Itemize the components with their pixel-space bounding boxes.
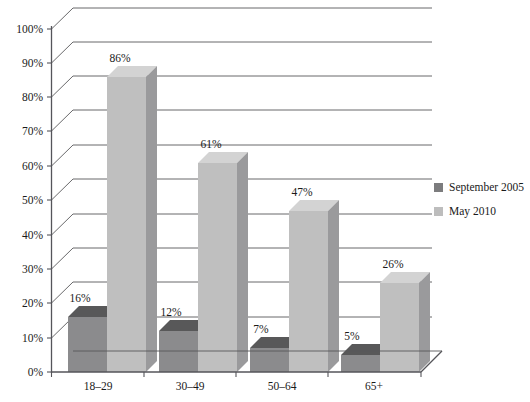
ytick-label-100: 100% [16, 23, 43, 35]
legend-label-september-2005: September 2005 [449, 181, 524, 194]
ytick-label-80: 80% [22, 91, 44, 103]
bar-65-plus-may-2010[interactable] [380, 272, 430, 372]
bar-group-3 [341, 272, 430, 372]
xtick-label-50-64: 50–64 [268, 380, 297, 392]
ytick-label-30: 30% [22, 263, 44, 275]
ytick-label-90: 90% [22, 57, 44, 69]
bar-30-49-may-2010[interactable] [198, 152, 248, 372]
bar-chart-figure: 100% 90% 80% 70% 60% 50% 40% 30% 20% 10%… [0, 0, 530, 402]
ytick-label-40: 40% [22, 229, 44, 241]
value-label-18-29-september-2005: 16% [69, 292, 91, 304]
bar-side-face [419, 272, 430, 372]
x-tickmarks [52, 372, 422, 377]
bar-front-face [68, 317, 107, 372]
ytick-label-50: 50% [22, 194, 44, 206]
bar-front-face [289, 211, 328, 372]
ytick-label-20: 20% [22, 297, 44, 309]
bar-side-face [146, 66, 157, 372]
value-label-50-64-september-2005: 7% [253, 323, 269, 335]
bar-front-face [107, 77, 146, 372]
value-label-18-29-may-2010: 86% [109, 52, 131, 64]
bar-front-face [380, 283, 419, 372]
legend: September 2005 May 2010 [434, 181, 524, 218]
xtick-label-65-plus: 65+ [365, 380, 383, 392]
ytick-label-70: 70% [22, 125, 44, 137]
y-axis: 100% 90% 80% 70% 60% 50% 40% 30% 20% 10%… [16, 23, 51, 378]
value-label-30-49-september-2005: 12% [160, 306, 182, 318]
y-tickmarks [47, 29, 52, 372]
bar-front-face [341, 355, 380, 372]
ytick-label-10: 10% [22, 332, 44, 344]
xtick-label-30-49: 30–49 [176, 380, 205, 392]
bar-front-face [198, 163, 237, 372]
value-label-65-plus-may-2010: 26% [382, 258, 404, 270]
legend-label-may-2010: May 2010 [449, 205, 496, 218]
ytick-label-60: 60% [22, 160, 44, 172]
bar-front-face [159, 331, 198, 372]
gridline-100 [52, 8, 433, 29]
legend-swatch-may-2010 [434, 207, 443, 216]
legend-swatch-september-2005 [434, 183, 443, 192]
bar-side-face [328, 200, 339, 372]
value-label-30-49-may-2010: 61% [200, 138, 222, 150]
bar-group-1 [159, 152, 248, 372]
legend-item-september-2005[interactable]: September 2005 [434, 181, 524, 194]
bar-50-64-may-2010[interactable] [289, 200, 339, 372]
bar-group-2 [250, 200, 339, 372]
bar-group-0 [68, 66, 157, 372]
legend-item-may-2010[interactable]: May 2010 [434, 205, 496, 218]
bar-18-29-may-2010[interactable] [107, 66, 157, 372]
chart-canvas: 100% 90% 80% 70% 60% 50% 40% 30% 20% 10%… [0, 0, 530, 402]
ytick-label-0: 0% [28, 366, 44, 378]
value-label-50-64-may-2010: 47% [291, 186, 313, 198]
value-label-65-plus-september-2005: 5% [344, 330, 360, 342]
xtick-label-18-29: 18–29 [84, 380, 113, 392]
bar-front-face [250, 348, 289, 372]
bar-side-face [237, 152, 248, 372]
